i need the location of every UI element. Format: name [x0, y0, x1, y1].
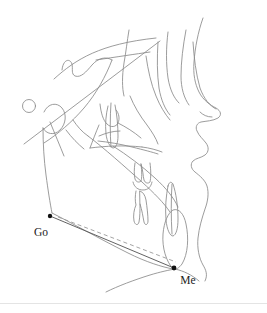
landmark-label-go: Go: [34, 226, 48, 238]
landmark-label-me: Me: [180, 274, 195, 286]
landmark-point-go: [48, 214, 52, 218]
cephalometric-tracing-figure: Go Me: [0, 0, 267, 313]
figure-background: [0, 0, 267, 313]
landmark-point-me: [172, 266, 177, 271]
